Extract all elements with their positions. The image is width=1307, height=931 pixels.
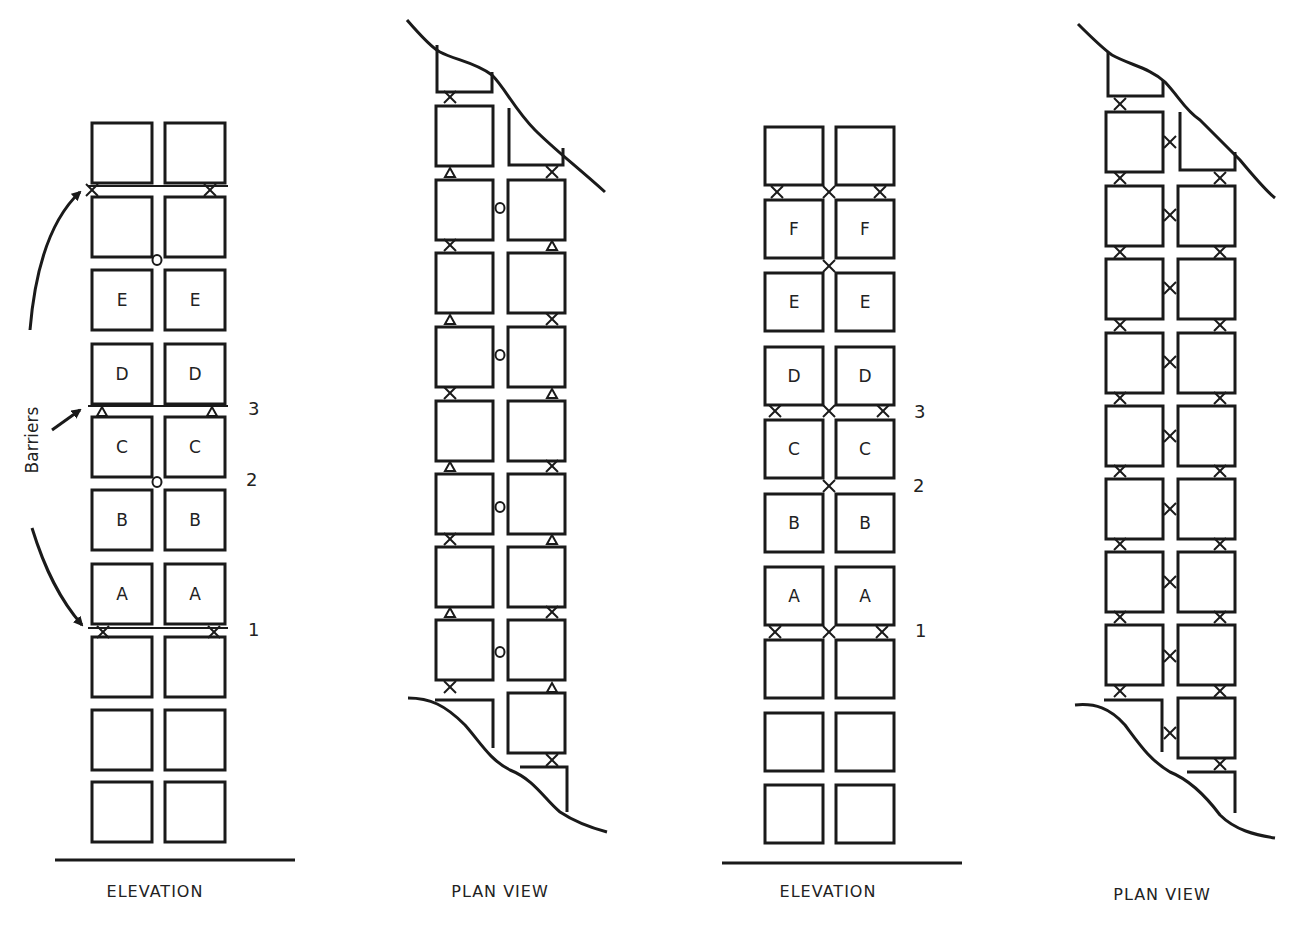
x-connector-icon xyxy=(823,405,835,417)
x-connector-icon xyxy=(444,681,456,693)
plan-block xyxy=(1106,259,1163,319)
precast-block xyxy=(92,637,152,697)
level-number: 1 xyxy=(248,619,259,640)
x-connector-icon xyxy=(1164,282,1176,294)
triangle-connector-icon xyxy=(445,168,455,177)
triangle-connector-icon xyxy=(207,407,217,416)
block-label: E xyxy=(789,292,800,312)
plan-block xyxy=(1178,333,1235,393)
x-connector-icon xyxy=(1164,727,1176,739)
slope-line-bottom xyxy=(1075,705,1275,838)
triangle-connector-icon xyxy=(547,535,557,544)
level-number: 2 xyxy=(246,469,257,490)
x-connector-icon xyxy=(1114,172,1126,184)
plan-block xyxy=(1178,259,1235,319)
triangle-connector-icon xyxy=(445,462,455,471)
caption-elevation-left: ELEVATION xyxy=(107,882,204,901)
block-label: E xyxy=(860,292,871,312)
plan-block xyxy=(508,693,565,753)
elevation-panel-left: EEDDCCBBAA321 xyxy=(55,123,295,860)
block-label: B xyxy=(116,510,128,530)
precast-block xyxy=(765,785,823,843)
x-connector-icon xyxy=(1114,98,1126,110)
plan-block xyxy=(1178,479,1235,539)
precast-block xyxy=(836,713,894,771)
level-number: 3 xyxy=(914,401,925,422)
plan-block xyxy=(1178,698,1235,758)
x-connector-icon xyxy=(1214,685,1226,697)
x-connector-icon xyxy=(874,186,886,198)
pin-connector-icon xyxy=(153,477,162,487)
plan-block xyxy=(436,547,493,607)
block-label: D xyxy=(787,366,800,386)
x-connector-icon xyxy=(877,405,889,417)
block-label: B xyxy=(189,510,201,530)
plan-block xyxy=(436,620,493,680)
x-connector-icon xyxy=(769,626,781,638)
plan-block xyxy=(1178,552,1235,612)
pin-connector-icon xyxy=(496,203,505,213)
x-connector-icon xyxy=(546,754,558,766)
caption-elevation-right: ELEVATION xyxy=(780,882,877,901)
precast-block xyxy=(165,782,225,842)
plan-block xyxy=(1106,186,1163,246)
precast-block xyxy=(765,127,823,185)
plan-block xyxy=(1178,406,1235,466)
pin-connector-icon xyxy=(496,647,505,657)
precast-block xyxy=(836,785,894,843)
precast-block xyxy=(165,123,225,183)
block-label: A xyxy=(788,586,800,606)
triangle-connector-icon xyxy=(445,315,455,324)
block-label: E xyxy=(190,290,201,310)
plan-view-panel-left xyxy=(407,20,607,832)
precast-block xyxy=(92,197,152,257)
triangle-connector-icon xyxy=(97,407,107,416)
precast-block xyxy=(92,782,152,842)
block-label: C xyxy=(788,439,800,459)
level-number: 2 xyxy=(913,475,924,496)
block-label: D xyxy=(188,364,201,384)
block-label: E xyxy=(117,290,128,310)
block-label: A xyxy=(859,586,871,606)
precast-block xyxy=(765,640,823,698)
triangle-connector-icon xyxy=(547,389,557,398)
triangle-connector-icon xyxy=(547,241,557,250)
plan-block xyxy=(508,620,565,680)
block-label: C xyxy=(189,437,201,457)
x-connector-icon xyxy=(1214,758,1226,770)
precast-block xyxy=(165,637,225,697)
x-connector-icon xyxy=(1114,685,1126,697)
plan-block xyxy=(436,106,493,166)
plan-block xyxy=(508,547,565,607)
block-label: F xyxy=(860,219,870,239)
precast-block xyxy=(836,640,894,698)
x-connector-icon xyxy=(1214,319,1226,331)
x-connector-icon xyxy=(444,387,456,399)
barriers-label: Barriers xyxy=(22,406,42,473)
plan-block xyxy=(508,327,565,387)
plan-block xyxy=(1106,552,1163,612)
precast-block xyxy=(92,710,152,770)
pin-connector-icon xyxy=(496,502,505,512)
triangle-connector-icon xyxy=(547,683,557,692)
x-connector-icon xyxy=(546,313,558,325)
x-connector-icon xyxy=(823,626,835,638)
block-label: D xyxy=(858,366,871,386)
x-connector-icon xyxy=(1164,650,1176,662)
pin-connector-icon xyxy=(496,350,505,360)
x-connector-icon xyxy=(1114,246,1126,258)
plan-block xyxy=(508,253,565,313)
x-connector-icon xyxy=(769,405,781,417)
level-number: 3 xyxy=(248,398,259,419)
plan-block xyxy=(1178,186,1235,246)
x-connector-icon xyxy=(1164,209,1176,221)
plan-block xyxy=(508,180,565,240)
x-connector-icon xyxy=(1164,430,1176,442)
plan-block xyxy=(1106,625,1163,685)
x-connector-icon xyxy=(1214,172,1226,184)
precast-block xyxy=(165,710,225,770)
plan-block xyxy=(436,474,493,534)
x-connector-icon xyxy=(1164,356,1176,368)
block-label: C xyxy=(859,439,871,459)
x-connector-icon xyxy=(1164,136,1176,148)
